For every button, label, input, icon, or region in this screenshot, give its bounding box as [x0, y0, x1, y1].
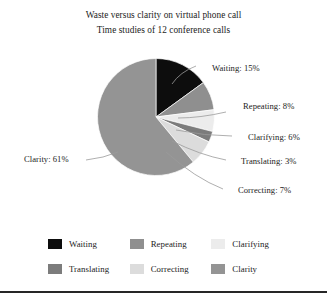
legend-row: TranslatingCorrectingClarity [48, 256, 293, 281]
legend-swatch-waiting [48, 239, 62, 249]
legend-swatch-clarifying [211, 239, 225, 249]
legend-label: Correcting [151, 264, 189, 274]
slice-label-waiting: Waiting: 15% [212, 63, 260, 73]
legend-swatch-clarity [211, 264, 225, 274]
slice-label-clarifying: Clarifying: 6% [248, 132, 300, 142]
legend-label: Waiting [69, 239, 97, 249]
legend-row: WaitingRepeatingClarifying [48, 231, 293, 256]
legend-label: Translating [69, 264, 109, 274]
legend-item-clarifying[interactable]: Clarifying [211, 239, 293, 249]
chart-subtitle: Time studies of 12 conference calls [0, 23, 327, 38]
legend-item-clarity[interactable]: Clarity [211, 264, 293, 274]
slice-label-repeating: Repeating: 8% [243, 101, 294, 111]
slice-label-clarity: Clarity: 61% [24, 154, 69, 164]
slice-label-correcting: Correcting: 7% [238, 185, 291, 195]
chart-title-block: Waste versus clarity on virtual phone ca… [0, 8, 327, 38]
pie-svg [97, 58, 215, 176]
pie-plot-area [97, 58, 215, 176]
legend-swatch-repeating [130, 239, 144, 249]
legend-item-repeating[interactable]: Repeating [130, 239, 212, 249]
legend-swatch-correcting [130, 264, 144, 274]
slice-label-translating: Translating: 3% [241, 156, 296, 166]
chart-legend: WaitingRepeatingClarifyingTranslatingCor… [48, 231, 293, 281]
legend-item-translating[interactable]: Translating [48, 264, 130, 274]
pie-chart-figure: Waste versus clarity on virtual phone ca… [0, 0, 327, 303]
legend-label: Clarity [232, 264, 257, 274]
legend-item-correcting[interactable]: Correcting [130, 264, 212, 274]
legend-swatch-translating [48, 264, 62, 274]
legend-item-waiting[interactable]: Waiting [48, 239, 130, 249]
chart-title: Waste versus clarity on virtual phone ca… [0, 8, 327, 23]
legend-label: Clarifying [232, 239, 269, 249]
bottom-divider [0, 291, 327, 293]
pie-slice-group [98, 59, 215, 176]
legend-label: Repeating [151, 239, 187, 249]
